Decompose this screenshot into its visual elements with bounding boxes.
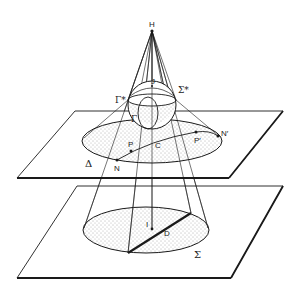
point-P-prime (195, 131, 198, 134)
stereographic-projection-diagram: H J Γ* Σ* Γ P P′ N N′ C Δ I D Σ (0, 0, 296, 292)
label-D: D (164, 229, 170, 238)
point-N (116, 159, 119, 162)
label-gamma-star: Γ* (115, 95, 126, 105)
label-C: C (155, 141, 161, 150)
label-N: N (114, 164, 120, 173)
label-sigma: Σ (194, 249, 201, 260)
label-delta: Δ (85, 158, 92, 169)
label-gamma: Γ (131, 114, 137, 124)
label-J: J (151, 77, 155, 86)
label-N-prime: N′ (221, 129, 229, 138)
label-I: I (146, 220, 148, 229)
label-sigma-star: Σ* (178, 85, 189, 95)
point-H (150, 29, 153, 32)
label-P: P (128, 140, 133, 149)
point-P (130, 150, 133, 153)
point-N-prime (217, 135, 220, 138)
label-H: H (149, 20, 155, 29)
label-P-prime: P′ (194, 136, 201, 145)
